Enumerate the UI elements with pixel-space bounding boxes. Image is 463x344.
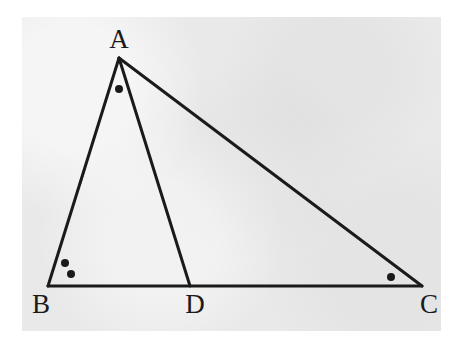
segment-AC — [119, 58, 422, 286]
dot-B-inner-icon — [67, 270, 75, 278]
triangle-outline — [48, 58, 422, 286]
dot-A-icon — [115, 85, 123, 93]
dot-C-icon — [387, 273, 395, 281]
vertex-label-C: C — [420, 289, 438, 319]
cevian-AD — [119, 58, 190, 286]
segment-AD — [119, 58, 190, 286]
vertex-label-D: D — [185, 289, 205, 319]
figure-canvas: A B C D — [0, 0, 463, 344]
vertex-label-B: B — [32, 289, 50, 319]
angle-marker-dots — [61, 85, 395, 281]
vertex-label-A: A — [109, 24, 129, 54]
vertex-labels: A B C D — [32, 24, 438, 319]
dot-B-outer-icon — [61, 259, 69, 267]
geometry-figure: A B C D — [0, 0, 463, 344]
congruence-tick-marks — [80, 170, 313, 286]
